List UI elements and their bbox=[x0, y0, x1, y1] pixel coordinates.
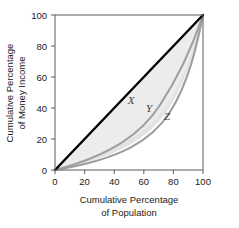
y-axis-title-line1: Cumulative Percentage bbox=[4, 44, 15, 143]
x-axis-title-line1: Cumulative Percentage bbox=[80, 194, 179, 205]
y-tick-label-0: 0 bbox=[42, 165, 47, 176]
curve-label-x: X bbox=[127, 94, 136, 106]
x-tick-label-60: 60 bbox=[139, 176, 150, 187]
y-tick-label-60: 60 bbox=[36, 72, 47, 83]
y-axis-ticks bbox=[51, 15, 55, 170]
x-tick-label-0: 0 bbox=[52, 176, 57, 187]
y-axis-title: Cumulative Percentage of Money Income bbox=[4, 44, 27, 143]
y-tick-label-20: 20 bbox=[36, 134, 47, 145]
x-axis-title: Cumulative Percentage of Population bbox=[80, 194, 179, 218]
x-tick-label-100: 100 bbox=[195, 176, 211, 187]
x-axis-ticks bbox=[55, 170, 203, 174]
y-tick-labels: 0 20 40 60 80 100 bbox=[31, 10, 47, 176]
y-tick-label-80: 80 bbox=[36, 41, 47, 52]
y-axis-title-line2: of Money Income bbox=[16, 57, 27, 130]
x-tick-label-20: 20 bbox=[79, 176, 90, 187]
y-tick-label-40: 40 bbox=[36, 103, 47, 114]
x-tick-labels: 0 20 40 60 80 100 bbox=[52, 176, 211, 187]
x-tick-label-40: 40 bbox=[109, 176, 120, 187]
chart-canvas: 0 20 40 60 80 100 0 20 40 60 80 100 X Y … bbox=[0, 0, 239, 228]
lorenz-curve-figure: 0 20 40 60 80 100 0 20 40 60 80 100 X Y … bbox=[0, 0, 239, 228]
x-axis-title-line2: of Population bbox=[101, 207, 156, 218]
y-tick-label-100: 100 bbox=[31, 10, 47, 21]
x-tick-label-80: 80 bbox=[168, 176, 179, 187]
curve-label-z: Z bbox=[164, 110, 171, 122]
